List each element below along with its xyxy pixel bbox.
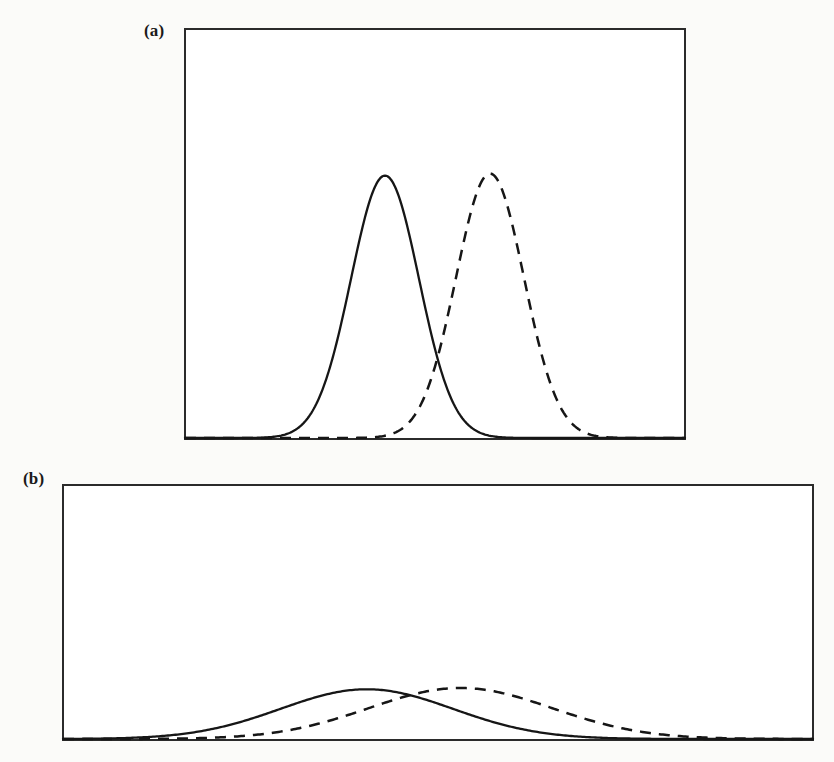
panel-a-frame: [185, 29, 685, 439]
panel-a-label: (a): [144, 22, 164, 39]
panel-b-label: (b): [23, 470, 44, 487]
figure-root: (a) (b): [0, 0, 834, 762]
panel-b-frame: [63, 485, 813, 740]
panel-b-chart: [58, 480, 818, 745]
panel-a-chart: [180, 24, 690, 444]
